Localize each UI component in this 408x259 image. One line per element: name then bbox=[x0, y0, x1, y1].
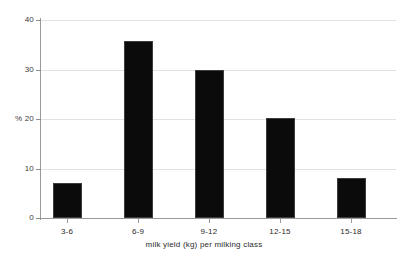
x-tick-label-9-12: 9-12 bbox=[179, 227, 239, 236]
y-tick-label-30: 30 bbox=[0, 66, 34, 74]
x-tick-15-18 bbox=[351, 219, 352, 223]
gridline-40 bbox=[41, 20, 396, 21]
x-tick-label-12-15: 12-15 bbox=[250, 227, 310, 236]
x-tick-label-3-6: 3-6 bbox=[37, 227, 97, 236]
y-tick-label-10: 10 bbox=[0, 165, 34, 173]
bar-3-6 bbox=[53, 183, 82, 218]
y-tick-30 bbox=[36, 70, 41, 71]
x-tick-label-6-9: 6-9 bbox=[108, 227, 168, 236]
x-tick-12-15 bbox=[280, 219, 281, 223]
x-tick-label-15-18: 15-18 bbox=[321, 227, 381, 236]
y-tick-10 bbox=[36, 169, 41, 170]
x-tick-3-6 bbox=[67, 219, 68, 223]
y-tick-0 bbox=[36, 218, 41, 219]
x-tick-9-12 bbox=[209, 219, 210, 223]
y-axis-label: % bbox=[10, 115, 22, 123]
bar-6-9 bbox=[124, 41, 153, 218]
y-tick-20 bbox=[36, 119, 41, 120]
y-tick-label-0: 0 bbox=[0, 214, 34, 222]
bar-12-15 bbox=[266, 118, 295, 219]
x-axis-title: milk yield (kg) per milking class bbox=[0, 240, 408, 249]
y-tick-label-40: 40 bbox=[0, 16, 34, 24]
plot-area bbox=[41, 20, 396, 218]
bar-chart: 40 30 20 10 0 % 3-6 6-9 9-12 12-15 15-18… bbox=[0, 0, 408, 259]
bar-9-12 bbox=[195, 70, 224, 219]
bar-15-18 bbox=[337, 178, 366, 218]
x-tick-6-9 bbox=[138, 219, 139, 223]
x-axis-line bbox=[40, 218, 397, 219]
y-tick-40 bbox=[36, 20, 41, 21]
